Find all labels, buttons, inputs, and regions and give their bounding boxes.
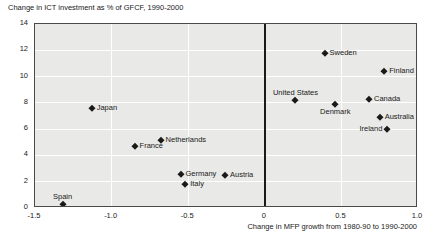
x-tick-label: -1.0 <box>96 212 126 220</box>
data-point-label: Austria <box>230 171 253 179</box>
x-axis-label: Change in MFP growth from 1980-90 to 199… <box>34 222 417 231</box>
x-tick-label: 0.5 <box>325 212 355 220</box>
diamond-marker-icon <box>321 50 327 56</box>
diamond-marker-icon <box>381 68 387 74</box>
gridline-horizontal <box>35 102 416 103</box>
x-tick-label: 0 <box>249 212 279 220</box>
y-tick-label: 4 <box>0 150 28 158</box>
diamond-marker-icon <box>384 126 390 132</box>
gridline-horizontal <box>35 181 416 182</box>
diamond-marker-icon <box>131 143 137 149</box>
data-point-label: Spain <box>53 193 72 201</box>
gridline-horizontal <box>35 155 416 156</box>
gridline-vertical <box>111 24 112 206</box>
x-tick-label: -0.5 <box>172 212 202 220</box>
y-tick-label: 14 <box>0 19 28 27</box>
x-tick-label: -1.5 <box>19 212 49 220</box>
data-point-label: Australia <box>385 113 414 121</box>
y-tick-label: 2 <box>0 177 28 185</box>
diamond-marker-icon <box>376 114 382 120</box>
chart-title: Change in ICT investment as % of GFCF, 1… <box>8 3 183 12</box>
y-tick-label: 12 <box>0 45 28 53</box>
data-point-label: Japan <box>97 104 117 112</box>
gridline-horizontal <box>35 50 416 51</box>
diamond-marker-icon <box>88 105 94 111</box>
data-point-label: Sweden <box>330 49 357 57</box>
diamond-marker-icon <box>177 171 183 177</box>
data-point-label: Finland <box>389 67 414 75</box>
data-point-label: Canada <box>374 95 400 103</box>
data-point-label: France <box>140 142 163 150</box>
data-point-label: Ireland <box>359 125 382 133</box>
y-tick-label: 10 <box>0 72 28 80</box>
y-tick-label: 0 <box>0 203 28 211</box>
diamond-marker-icon <box>366 96 372 102</box>
gridline-vertical <box>188 24 189 206</box>
data-point-label: Italy <box>190 180 204 188</box>
diamond-marker-icon <box>59 201 65 207</box>
diamond-marker-icon <box>222 172 228 178</box>
zero-reference-line <box>264 24 266 206</box>
y-tick-label: 6 <box>0 124 28 132</box>
data-point-label: Netherlands <box>166 136 206 144</box>
y-tick-label: 8 <box>0 98 28 106</box>
plot-area: SpainJapanFranceNetherlandsGermanyItalyA… <box>34 23 417 207</box>
data-point-label: United States <box>273 89 318 97</box>
data-point-label: Germany <box>186 170 217 178</box>
data-point-label: Denmark <box>320 108 350 116</box>
x-tick-label: 1.0 <box>402 212 432 220</box>
gridline-horizontal <box>35 76 416 77</box>
